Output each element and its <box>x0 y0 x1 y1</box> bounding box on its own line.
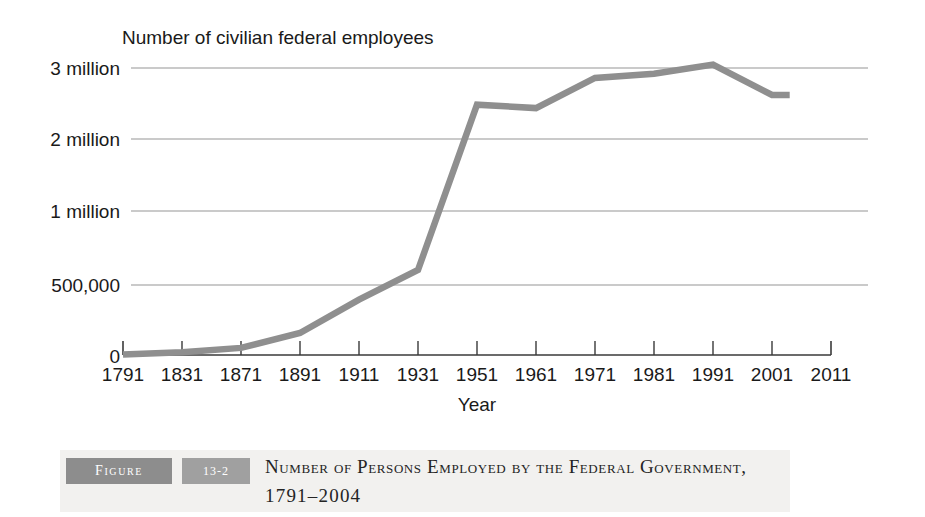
caption-row: Figure 13-2 Number of Persons Employed b… <box>60 450 790 512</box>
x-tick-label-1871: 1871 <box>220 364 262 385</box>
x-tick-label-2011: 2011 <box>811 364 852 385</box>
data-series-line <box>123 65 790 355</box>
x-tick-label-1981: 1981 <box>633 364 675 385</box>
caption-text: Number of Persons Employed by the Federa… <box>265 452 786 510</box>
line-chart: Number of civilian federal employees 3 m… <box>0 0 925 430</box>
y-tick-label-500k: 500,000 <box>51 275 120 296</box>
y-tick-label-1m: 1 million <box>50 201 120 222</box>
x-tick-label-2001: 2001 <box>751 364 793 385</box>
figure-word-badge: Figure <box>66 458 172 484</box>
figure-container: Number of civilian federal employees 3 m… <box>0 0 925 517</box>
x-tick-label-1971: 1971 <box>574 364 616 385</box>
x-tick-label-1831: 1831 <box>161 364 203 385</box>
y-tick-label-3m: 3 million <box>50 58 120 79</box>
chart-title: Number of civilian federal employees <box>122 27 434 48</box>
caption-line-1: Number of Persons Employed by the Federa… <box>265 452 786 481</box>
x-axis-tick-labels: 1791 1831 1871 1891 1911 1931 1951 1961 … <box>102 364 852 385</box>
caption-line-2: 1791–2004 <box>265 481 786 510</box>
figure-number-badge: 13-2 <box>182 458 250 484</box>
x-tick-label-1951: 1951 <box>456 364 498 385</box>
y-axis-tick-labels: 3 million 2 million 1 million 500,000 0 <box>50 58 120 367</box>
x-tick-label-1891: 1891 <box>279 364 321 385</box>
figure-caption: Figure 13-2 Number of Persons Employed b… <box>60 450 790 512</box>
chart-area: Number of civilian federal employees 3 m… <box>0 0 925 430</box>
x-tick-label-1961: 1961 <box>515 364 557 385</box>
y-tick-label-2m: 2 million <box>50 129 120 150</box>
gridlines <box>131 68 868 285</box>
x-tick-label-1991: 1991 <box>692 364 734 385</box>
x-axis-title: Year <box>458 394 497 415</box>
x-tick-label-1911: 1911 <box>339 364 380 385</box>
x-tick-label-1791: 1791 <box>102 364 144 385</box>
x-tick-label-1931: 1931 <box>397 364 439 385</box>
